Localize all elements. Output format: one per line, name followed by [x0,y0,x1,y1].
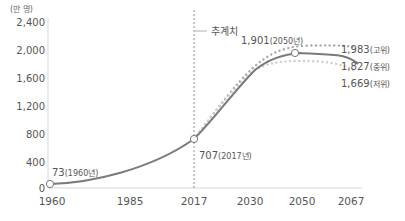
y-axis-ticks: 2,400 2,000 1,600 1,200 800 400 0 [16,17,45,194]
projection-label: 추계치 [211,26,238,37]
annotation-high: 1,983(고위) [341,44,390,55]
y-tick: 2,400 [16,17,45,28]
y-tick: 1,600 [16,73,45,84]
population-projection-chart: (만 명) 2,400 2,000 1,600 1,200 800 400 0 … [0,0,405,221]
annotation-1960: 73(1960년) [52,167,98,178]
x-tick: 1960 [39,195,66,207]
annotation-2050: 1,901(2050년) [241,35,303,46]
series-medium [50,53,358,184]
series-low [194,61,355,139]
annotation-medium: 1,827(중위) [341,61,390,72]
x-tick: 2017 [181,195,208,207]
y-tick: 1,200 [16,101,45,112]
x-tick: 1985 [117,195,144,207]
y-tick: 2,000 [16,45,45,56]
x-axis-ticks: 1960 1985 2017 2030 2050 2067 [39,195,365,207]
y-tick: 400 [26,157,45,168]
point-1960 [46,180,53,187]
x-tick: 2030 [237,195,264,207]
annotation-2017: 707(2017년) [199,150,252,161]
y-axis-unit: (만 명) [10,4,33,14]
point-2050 [291,49,298,56]
point-2017 [190,135,197,142]
annotation-low: 1,669(저위) [341,78,390,89]
x-tick: 2050 [289,195,316,207]
y-tick: 0 [39,183,45,194]
y-tick: 800 [26,129,45,140]
x-tick: 2067 [338,195,365,207]
